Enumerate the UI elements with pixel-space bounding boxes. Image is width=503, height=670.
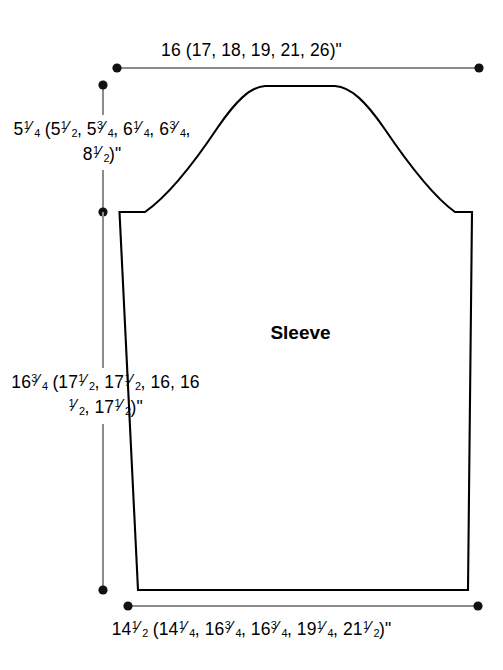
sleeve-schematic-diagram: 16 (17, 18, 19, 21, 26)" 51⁄4 (51⁄2, 53⁄… [0, 0, 503, 670]
cap-height-label: 51⁄4 (51⁄2, 53⁄4, 61⁄4, 63⁄4, 81⁄2)" [12, 117, 192, 167]
top-width-dimension-line [112, 63, 483, 72]
top-width-label: 16 (17, 18, 19, 21, 26)" [0, 38, 503, 63]
piece-name-label: Sleeve [228, 322, 373, 344]
bottom-width-label: 141⁄2 (141⁄4, 163⁄4, 163⁄4, 191⁄4, 211⁄2… [0, 617, 503, 642]
bottom-width-dimension-line [123, 601, 482, 610]
sleeve-length-label: 163⁄4 (171⁄2, 171⁄2, 16, 161⁄2, 171⁄2)" [8, 370, 203, 420]
